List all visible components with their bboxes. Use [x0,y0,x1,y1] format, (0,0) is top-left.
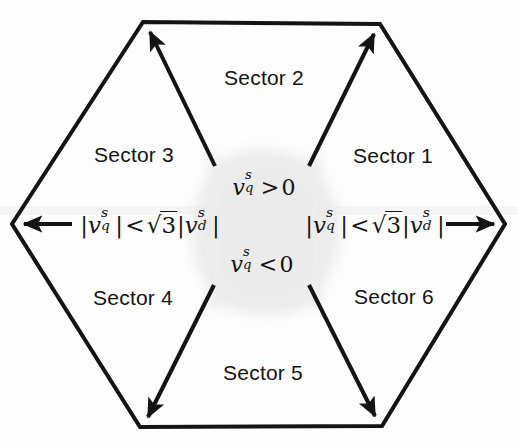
sector-label-1: Sector 1 [353,144,433,168]
sector-label-2: Sector 2 [224,66,304,90]
inequality-right: |vsq|<√3|vsd| [305,210,445,238]
condition-upper: vsq>0 [233,173,296,200]
figure-canvas: Sector 1 Sector 2 Sector 3 Sector 4 Sect… [0,0,517,448]
sector-label-5: Sector 5 [223,361,303,385]
sector-label-4: Sector 4 [93,286,173,310]
inequality-left: |vsq|<√3|vsd| [80,210,220,238]
sector-label-3: Sector 3 [94,143,174,167]
sector-label-6: Sector 6 [354,285,434,309]
condition-lower: vsq<0 [231,250,294,277]
